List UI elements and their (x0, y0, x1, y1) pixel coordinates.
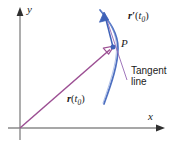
tangent-vector-label-close: ) (145, 10, 149, 21)
tangent-line-label: Tangent line (131, 66, 167, 88)
point-p-dot (111, 45, 116, 50)
position-vector-shaft (20, 50, 110, 129)
x-axis-label: x (148, 111, 153, 123)
tangent-vector-group (100, 12, 114, 47)
curve-group (100, 10, 118, 104)
vector-calculus-figure: y x P r′(t0) r(t0) Tangent line (0, 0, 186, 144)
x-axis-arrowhead (156, 125, 165, 132)
point-p-label: P (121, 38, 128, 50)
position-vector-label: r(t0) (67, 93, 85, 107)
position-vector-group (20, 46, 114, 128)
y-axis-arrowhead (17, 7, 24, 16)
parametric-curve-path (100, 10, 118, 104)
position-vector-label-close: ) (81, 93, 85, 104)
tangent-vector-label: r′(t0) (128, 10, 149, 24)
tangent-line-label-line2: line (131, 77, 167, 88)
y-axis-label: y (27, 4, 32, 16)
